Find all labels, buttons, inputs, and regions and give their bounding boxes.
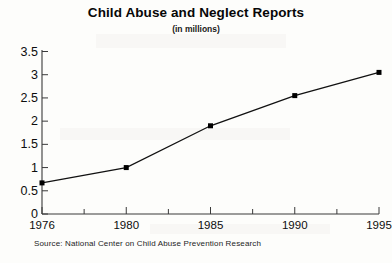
plot-area: [0, 0, 392, 263]
data-point-marker: [377, 70, 382, 75]
source-note: Source: National Center on Child Abuse P…: [34, 239, 261, 248]
axes: [42, 50, 379, 214]
x-axis-tick-label: 1990: [282, 219, 308, 231]
data-point-marker: [208, 123, 213, 128]
data-point-markers: [40, 70, 382, 185]
y-axis-ticks: [42, 52, 48, 215]
x-axis-tick-label: 1980: [113, 219, 139, 231]
chart-figure: Child Abuse and Neglect Reports (in mill…: [0, 0, 392, 263]
x-axis-tick-label: 1995: [366, 219, 392, 231]
x-axis-tick-label: 1976: [29, 219, 55, 231]
data-point-marker: [292, 93, 297, 98]
data-point-marker: [124, 165, 129, 170]
data-point-marker: [40, 180, 45, 185]
x-axis-ticks: [42, 207, 379, 214]
x-axis-tick-label: 1985: [198, 219, 224, 231]
